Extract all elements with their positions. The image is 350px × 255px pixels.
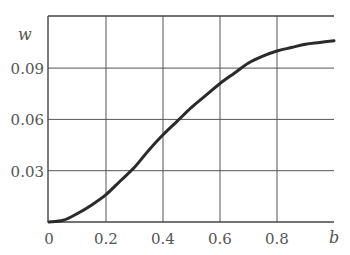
y-tick-0.06: 0.06 bbox=[11, 111, 44, 129]
x-tick-0: 0 bbox=[44, 230, 54, 248]
x-tick-0.6: 0.6 bbox=[208, 230, 232, 248]
line-chart: w b 0.09 0.06 0.03 0 0.2 0.4 0.6 0.8 bbox=[0, 0, 350, 255]
y-tick-0.09: 0.09 bbox=[11, 60, 44, 78]
y-tick-0.03: 0.03 bbox=[11, 163, 44, 181]
x-axis-label: b bbox=[329, 228, 339, 247]
y-axis-label: w bbox=[18, 25, 32, 44]
x-tick-0.8: 0.8 bbox=[265, 230, 289, 248]
x-tick-0.2: 0.2 bbox=[94, 230, 118, 248]
x-tick-0.4: 0.4 bbox=[151, 230, 175, 248]
